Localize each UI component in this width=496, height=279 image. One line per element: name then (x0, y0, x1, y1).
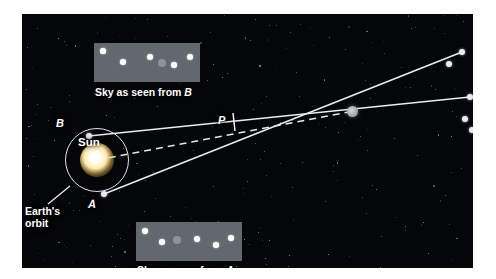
sky-a-star (142, 228, 148, 234)
sky-panel-b-caption: Sky as seen from B (95, 86, 192, 98)
sky-b-star (171, 62, 177, 68)
sky-a-star (228, 235, 234, 241)
sky-b-target-star (158, 59, 167, 68)
background-star (469, 127, 473, 133)
orbit-node-a (101, 191, 107, 197)
parallax-figure: Sun B A P Earth's orbit Sky as seen from… (22, 14, 473, 268)
sky-panel-a-caption-point: A (226, 264, 234, 268)
sun-label: Sun (78, 136, 100, 149)
sky-b-star (100, 48, 105, 53)
sightline-from-b (89, 97, 470, 136)
parallax-angle-label: P (218, 114, 225, 126)
point-a-label: A (88, 198, 96, 210)
point-b-label: B (56, 117, 64, 129)
parallax-angle-tick (233, 113, 235, 131)
sky-panel-a-caption: Sky as seen from A (137, 264, 234, 268)
sky-a-star (159, 239, 165, 245)
background-star (459, 49, 465, 55)
sky-panel-a-caption-text: Sky as seen from (137, 264, 226, 268)
target-star (347, 106, 358, 117)
earth-orbit-label-line1: Earth's (25, 206, 60, 218)
sky-b-star (120, 59, 126, 65)
sky-a-star (213, 242, 219, 248)
sky-b-star (187, 54, 193, 60)
background-star (467, 94, 473, 100)
sky-panel-from-b (94, 43, 200, 82)
sky-b-star (147, 54, 153, 60)
background-star (462, 116, 468, 122)
baseline-sun-to-star (97, 111, 354, 160)
sky-panel-b-caption-point: B (184, 86, 192, 98)
earth-orbit-label-line2: orbit (25, 218, 48, 230)
background-star (446, 61, 452, 67)
sky-a-star (194, 236, 200, 242)
sky-a-target-star (173, 236, 182, 245)
sky-panel-from-a (136, 222, 242, 261)
sky-panel-b-caption-text: Sky as seen from (95, 86, 184, 98)
